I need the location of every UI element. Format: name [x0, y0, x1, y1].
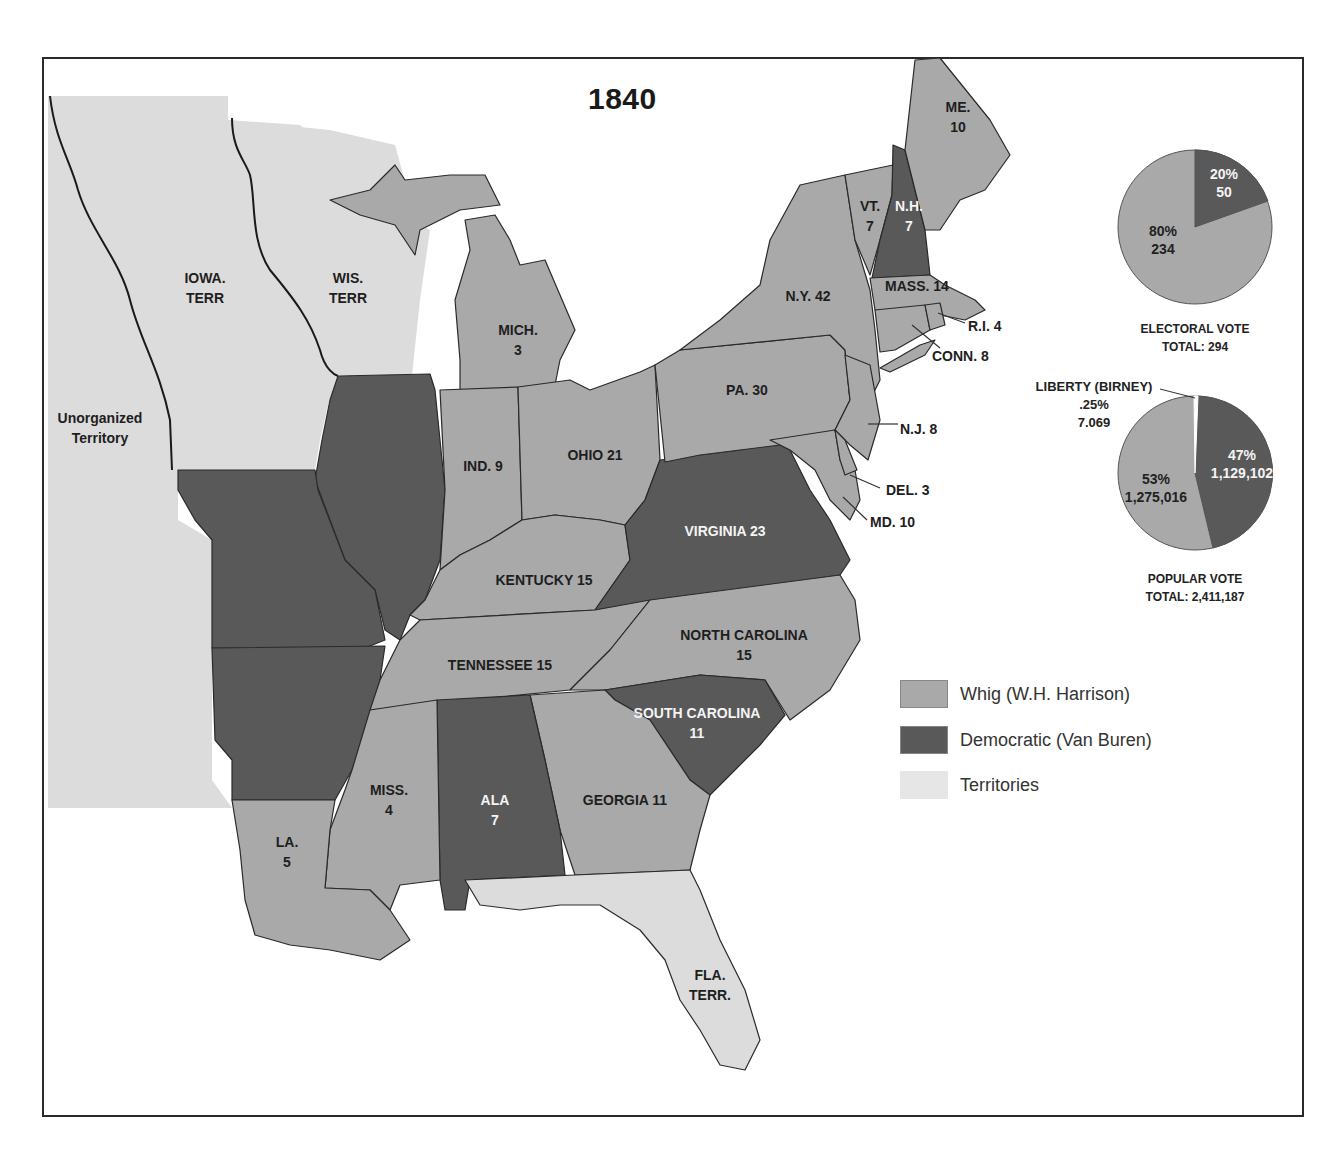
- label-vermont: VT. 7: [860, 196, 880, 236]
- label-line: 15: [680, 645, 808, 665]
- label-rhode-island: R.I. 4: [968, 316, 1001, 336]
- label-line: 4: [370, 800, 408, 820]
- label-line: 7: [895, 216, 923, 236]
- label-line: IOWA.: [184, 268, 225, 288]
- legend-item-territories: Territories: [900, 770, 1039, 800]
- legend-label: Territories: [960, 775, 1039, 796]
- legend-swatch-whig: [900, 680, 948, 708]
- label-new-hampshire: N.H. 7: [895, 196, 923, 236]
- electoral-dem-label: 20% 50: [1210, 165, 1238, 201]
- electoral-whig-label: 80% 234: [1149, 222, 1177, 258]
- label-line: MISS.: [370, 780, 408, 800]
- electoral-vote-caption: ELECTORAL VOTE TOTAL: 294: [1141, 320, 1250, 356]
- pie-pct: 53%: [1125, 470, 1187, 488]
- label-pennsylvania: PA. 30: [726, 380, 768, 400]
- caption-title: ELECTORAL VOTE: [1141, 320, 1250, 338]
- label-line: FLA.: [689, 965, 731, 985]
- label-virginia: VIRGINIA 23: [684, 521, 765, 541]
- pie-pct: .25%: [1036, 396, 1153, 414]
- caption-title: POPULAR VOTE: [1146, 570, 1245, 588]
- pie-value: 234: [1149, 240, 1177, 258]
- label-line: TERR: [184, 288, 225, 308]
- popular-vote-caption: POPULAR VOTE TOTAL: 2,411,187: [1146, 570, 1245, 606]
- label-ohio: OHIO 21: [567, 445, 622, 465]
- label-kentucky: KENTUCKY 15: [496, 570, 593, 590]
- label-line: ALA: [481, 790, 510, 810]
- label-georgia: GEORGIA 11: [583, 790, 667, 810]
- election-map: [0, 0, 1334, 1154]
- pie-pct: 20%: [1210, 165, 1238, 183]
- label-massachusetts: MASS. 14: [885, 276, 949, 296]
- label-line: N.H.: [895, 196, 923, 216]
- label-line: VT.: [860, 196, 880, 216]
- legend-item-democratic: Democratic (Van Buren): [900, 725, 1152, 755]
- label-line: SOUTH CAROLINA: [634, 703, 761, 723]
- pie-value: 50: [1210, 183, 1238, 201]
- label-line: TERR.: [689, 985, 731, 1005]
- legend-swatch-territories: [900, 771, 948, 799]
- label-mississippi: MISS. 4: [370, 780, 408, 820]
- pie-pct: 80%: [1149, 222, 1177, 240]
- label-line: NORTH CAROLINA: [680, 625, 808, 645]
- label-alabama: ALA 7: [481, 790, 510, 830]
- label-line: Territory: [58, 428, 143, 448]
- label-line: LA.: [276, 832, 299, 852]
- label-new-york: N.Y. 42: [785, 286, 830, 306]
- pie-value: 1,129,102: [1211, 464, 1273, 482]
- pie-pct: 47%: [1211, 446, 1273, 464]
- label-line: ME.: [946, 97, 971, 117]
- pie-value: 7.069: [1036, 414, 1153, 432]
- label-new-jersey: N.J. 8: [900, 419, 937, 439]
- label-line: WIS.: [329, 268, 367, 288]
- label-north-carolina: NORTH CAROLINA 15: [680, 625, 808, 665]
- label-line: TERR: [329, 288, 367, 308]
- caption-total: TOTAL: 2,411,187: [1146, 588, 1245, 606]
- label-wis-territory: WIS. TERR: [329, 268, 367, 308]
- label-line: 7: [860, 216, 880, 236]
- label-maine: ME. 10: [946, 97, 971, 137]
- pie-label: LIBERTY (BIRNEY): [1036, 378, 1153, 396]
- label-line: 5: [276, 852, 299, 872]
- label-connecticut: CONN. 8: [932, 346, 989, 366]
- label-maryland: MD. 10: [870, 512, 915, 532]
- label-line: 11: [634, 723, 761, 743]
- label-indiana: IND. 9: [463, 456, 503, 476]
- label-south-carolina: SOUTH CAROLINA 11: [634, 703, 761, 743]
- legend-swatch-democratic: [900, 726, 948, 754]
- label-line: 7: [481, 810, 510, 830]
- label-michigan: MICH. 3: [498, 320, 538, 360]
- label-line: 3: [498, 340, 538, 360]
- label-louisiana: LA. 5: [276, 832, 299, 872]
- legend-label: Democratic (Van Buren): [960, 730, 1152, 751]
- label-tennessee: TENNESSEE 15: [448, 655, 552, 675]
- label-delaware: DEL. 3: [886, 480, 930, 500]
- label-line: 10: [946, 117, 971, 137]
- popular-whig-label: 53% 1,275,016: [1125, 470, 1187, 506]
- michigan: [455, 215, 575, 392]
- label-florida-territory: FLA. TERR.: [689, 965, 731, 1005]
- label-line: MICH.: [498, 320, 538, 340]
- pie-value: 1,275,016: [1125, 488, 1187, 506]
- legend-label: Whig (W.H. Harrison): [960, 684, 1130, 705]
- popular-liberty-label: LIBERTY (BIRNEY) .25% 7.069: [1036, 378, 1153, 432]
- caption-total: TOTAL: 294: [1141, 338, 1250, 356]
- label-iowa-territory: IOWA. TERR: [184, 268, 225, 308]
- popular-dem-label: 47% 1,129,102: [1211, 446, 1273, 482]
- legend-item-whig: Whig (W.H. Harrison): [900, 679, 1130, 709]
- label-unorganized-territory: Unorganized Territory: [58, 408, 143, 448]
- map-title: 1840: [588, 82, 657, 116]
- electoral-vote-pie: [1118, 150, 1272, 304]
- label-line: Unorganized: [58, 408, 143, 428]
